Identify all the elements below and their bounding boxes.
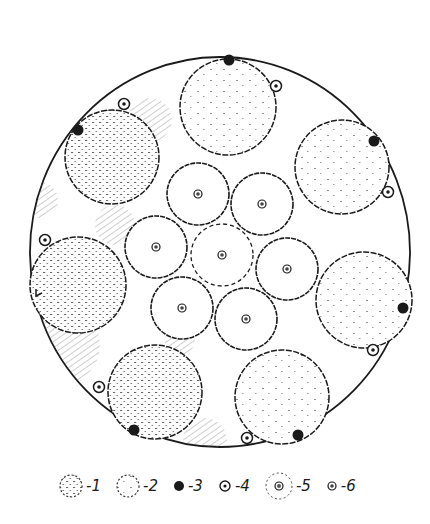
sparse-stippled-circle-icon [115,473,141,499]
large-conductor-bottom-right [235,350,329,444]
large-conductor-top [180,59,276,155]
legend-label-2: -2 [143,477,158,495]
legend-label-3: -3 [188,477,203,495]
legend-item-2: -2 [115,473,158,499]
large-conductor-upper-left [65,110,159,204]
legend-item-6: -6 [325,473,356,499]
legend-item-4: -4 [217,473,250,499]
large-conductor-upper-right [295,120,389,214]
black-dot-icon [369,136,380,147]
black-dot-icon [129,425,140,436]
legend-item-5: -5 [264,471,311,501]
legend-label-6: -6 [341,477,356,495]
legend-item-3: -3 [172,473,203,499]
black-dot-icon [73,125,84,136]
dashed-circle-with-core-icon [264,471,294,501]
black-dot-icon [293,430,304,441]
black-dot-icon [172,473,186,499]
cross-section-diagram [0,0,430,524]
large-conductor-left [30,237,126,333]
legend-item-1: -1 [58,473,101,499]
large-conductor-right [316,252,412,348]
large-conductor-bottom-left [108,345,202,439]
black-dot-icon [224,55,235,66]
core-dot-icon [325,473,339,499]
legend-label-4: -4 [235,477,250,495]
legend-label-1: -1 [86,477,101,495]
dense-stippled-circle-icon [58,473,84,499]
black-dot-icon [398,303,409,314]
legend: -1 -2 -3 -4 -5 -6 [58,470,398,502]
legend-label-5: -5 [296,477,311,495]
small-ring-marker-icon [217,473,233,499]
